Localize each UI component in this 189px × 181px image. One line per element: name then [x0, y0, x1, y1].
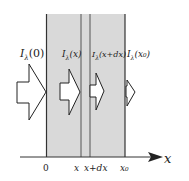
intensity-label-0: Iλ(0) [19, 47, 44, 62]
diagram-canvas: Iλ(0) Iλ(x) Iλ(x+dx) Iλ(x₀) x 0 x x+dx x… [0, 0, 189, 181]
tick-label-x-dx: x+dx [84, 163, 107, 173]
absorbing-slab [46, 14, 125, 157]
tick-label-0: 0 [43, 163, 49, 173]
intensity-label-x0: Iλ(x₀) [126, 49, 151, 61]
intensity-arrow-0 [17, 64, 46, 120]
tick-label-x0: x₀ [120, 163, 129, 173]
tick-label-x: x [74, 163, 79, 173]
x-axis-label: x [164, 151, 172, 166]
intensity-arrow-x0 [126, 80, 135, 106]
